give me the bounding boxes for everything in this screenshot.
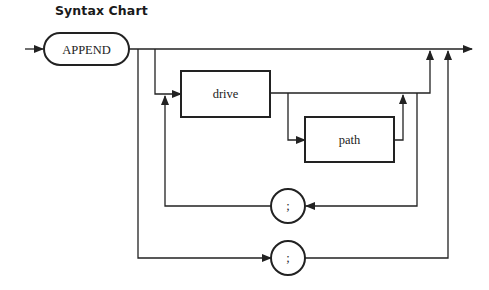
- path-entry-line: [288, 93, 305, 140]
- separator-2-label: ;: [286, 251, 289, 265]
- path-node: path: [305, 117, 394, 162]
- append-node: APPEND: [44, 33, 129, 65]
- path-exit-line: [394, 95, 403, 140]
- separator-node-2: ;: [271, 241, 305, 275]
- append-label: APPEND: [62, 43, 111, 57]
- drive-entry-line: [155, 49, 181, 94]
- syntax-diagram: APPEND drive path ; ;: [0, 0, 489, 290]
- separator-node-1: ;: [271, 189, 305, 223]
- drive-exit-line: [270, 51, 430, 93]
- separator-1-label: ;: [286, 199, 289, 213]
- drive-label: drive: [213, 87, 239, 101]
- path-label: path: [339, 133, 361, 147]
- drive-node: drive: [181, 71, 270, 117]
